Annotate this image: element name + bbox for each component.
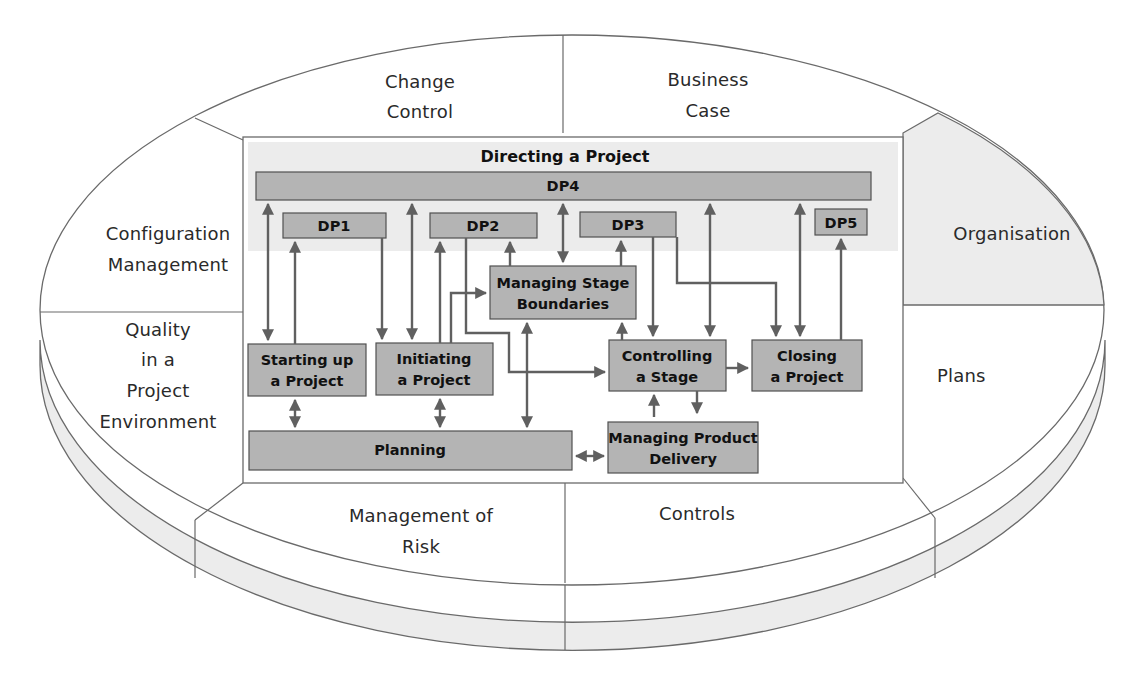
- svg-text:Boundaries: Boundaries: [517, 296, 609, 312]
- svg-text:DP4: DP4: [547, 178, 580, 194]
- svg-text:Risk: Risk: [402, 536, 440, 557]
- svg-text:Environment: Environment: [99, 411, 216, 432]
- svg-text:Management: Management: [108, 254, 229, 275]
- svg-text:a Project: a Project: [398, 372, 471, 388]
- svg-text:Organisation: Organisation: [953, 223, 1070, 244]
- svg-text:Closing: Closing: [777, 348, 837, 364]
- svg-text:a Project: a Project: [771, 369, 844, 385]
- prince2-diagram: Change Control Business Case Organisatio…: [0, 0, 1128, 685]
- svg-text:Managing Stage: Managing Stage: [497, 275, 630, 291]
- svg-text:Change: Change: [385, 71, 455, 92]
- svg-text:DP2: DP2: [467, 218, 500, 234]
- component-plans: Plans: [937, 365, 986, 386]
- svg-text:Controlling: Controlling: [622, 348, 713, 364]
- svg-text:DP3: DP3: [612, 217, 645, 233]
- svg-text:Managing Product: Managing Product: [608, 430, 757, 446]
- svg-text:Controls: Controls: [659, 503, 735, 524]
- svg-text:DP5: DP5: [825, 215, 858, 231]
- svg-text:a Project: a Project: [271, 373, 344, 389]
- component-controls: Controls: [659, 503, 735, 524]
- svg-text:Plans: Plans: [937, 365, 986, 386]
- svg-text:in a: in a: [141, 349, 175, 370]
- svg-text:Planning: Planning: [374, 442, 446, 458]
- svg-text:Project: Project: [127, 380, 190, 401]
- svg-text:a Stage: a Stage: [636, 369, 698, 385]
- directing-a-project-title: Directing a Project: [481, 147, 650, 166]
- svg-text:Starting up: Starting up: [261, 352, 354, 368]
- svg-text:Configuration: Configuration: [106, 223, 231, 244]
- svg-text:DP1: DP1: [318, 218, 351, 234]
- svg-text:Case: Case: [686, 100, 731, 121]
- svg-text:Business: Business: [668, 69, 749, 90]
- svg-text:Quality: Quality: [125, 319, 191, 340]
- component-organisation: Organisation: [953, 223, 1070, 244]
- svg-text:Control: Control: [387, 101, 453, 122]
- svg-text:Initiating: Initiating: [397, 351, 472, 367]
- svg-text:Delivery: Delivery: [649, 451, 717, 467]
- svg-text:Management of: Management of: [349, 505, 494, 526]
